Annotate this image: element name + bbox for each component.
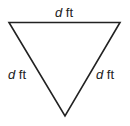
top-side-unit: ft	[66, 5, 73, 20]
left-side-unit: ft	[19, 67, 26, 82]
right-side-variable: d	[96, 67, 103, 82]
right-side-label: d ft	[96, 68, 114, 81]
right-side-unit: ft	[107, 67, 114, 82]
left-side-variable: d	[8, 67, 15, 82]
top-side-label: d ft	[55, 6, 73, 19]
left-side-label: d ft	[8, 68, 26, 81]
top-side-variable: d	[55, 5, 62, 20]
